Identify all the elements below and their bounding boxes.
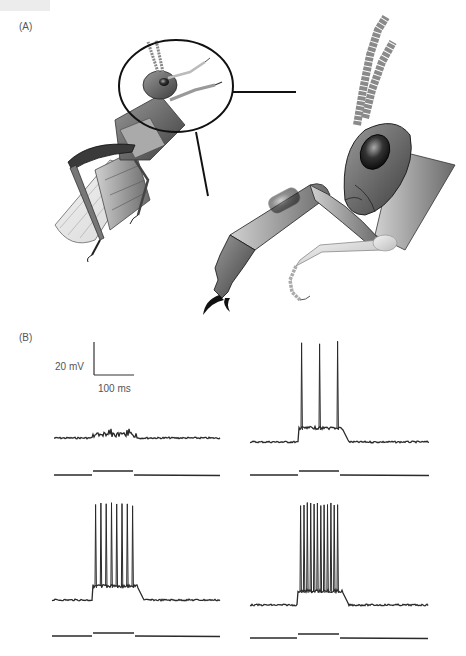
action-potential — [337, 341, 338, 430]
stimulus-trace — [54, 471, 220, 476]
action-potential — [300, 506, 301, 593]
voltage-trace — [52, 585, 220, 601]
scale-bar — [94, 342, 134, 375]
action-potential — [127, 504, 128, 588]
action-potential — [317, 503, 318, 593]
action-potential — [121, 504, 122, 588]
action-potential — [111, 503, 112, 588]
voltage-traces — [52, 341, 429, 638]
action-potential — [334, 505, 335, 593]
action-potential — [95, 504, 96, 588]
action-potential — [324, 505, 325, 593]
action-potential — [132, 506, 133, 588]
action-potential — [320, 506, 321, 593]
action-potential — [314, 504, 315, 593]
stimulus-trace — [250, 471, 429, 476]
action-potential — [116, 504, 117, 588]
voltage-trace — [54, 429, 220, 439]
recordings-panel — [0, 0, 466, 656]
action-potential — [310, 503, 311, 593]
action-potential — [301, 343, 302, 430]
action-potential — [327, 505, 328, 593]
action-potential — [319, 344, 320, 430]
action-potential — [307, 503, 308, 593]
stimulus-trace — [52, 633, 220, 637]
action-potential — [106, 504, 107, 588]
voltage-trace — [250, 427, 429, 443]
action-potential — [330, 503, 331, 593]
action-potential — [337, 505, 338, 593]
action-potential — [303, 505, 304, 593]
voltage-trace — [250, 590, 428, 606]
action-potential — [100, 503, 101, 588]
stimulus-trace — [250, 634, 428, 639]
